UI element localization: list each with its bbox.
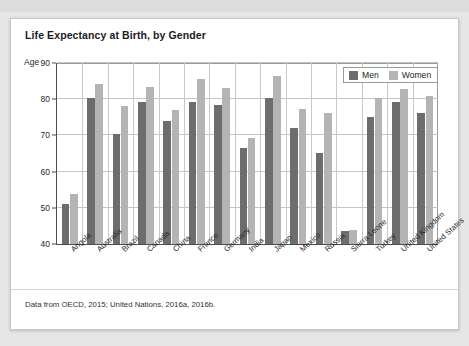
- bar-group: [159, 63, 184, 244]
- page-top-band: [0, 0, 469, 12]
- bar-men: [138, 102, 146, 244]
- bar-women: [324, 113, 332, 244]
- y-axis-tick-label: 50: [41, 203, 50, 213]
- bar-group: [184, 63, 209, 244]
- bar-group: [235, 63, 260, 244]
- y-axis-tick-label: 60: [41, 167, 50, 177]
- y-axis-tick-layer: 405060708090: [11, 63, 56, 245]
- bar-group: [387, 63, 412, 244]
- y-axis-tick-label: 90: [41, 58, 50, 68]
- bar-men: [87, 98, 95, 244]
- figure-source-note: Data from OECD, 2015; United Nations, 20…: [25, 300, 215, 309]
- bar-group: [108, 63, 133, 244]
- bar-men: [62, 204, 70, 244]
- legend-swatch-women-icon: [389, 71, 398, 80]
- bar-men: [189, 102, 197, 244]
- footnote-divider: [11, 289, 458, 290]
- bar-men: [163, 121, 171, 244]
- bar-group: [260, 63, 285, 244]
- page-title: Life Expectancy at Birth, by Gender: [25, 29, 206, 41]
- page-background: Life Expectancy at Birth, by Gender Age …: [0, 0, 469, 346]
- y-axis-tick-label: 40: [41, 239, 50, 249]
- bar-women: [299, 109, 307, 244]
- bar-group: [362, 63, 387, 244]
- y-axis-tick-label: 70: [41, 130, 50, 140]
- bar-group: [286, 63, 311, 244]
- bar-women: [400, 89, 408, 244]
- chart-legend: Men Women: [343, 67, 438, 83]
- bar-group: [336, 63, 361, 244]
- y-axis-tick-label: 80: [41, 94, 50, 104]
- bar-group: [209, 63, 234, 244]
- legend-swatch-men-icon: [349, 71, 358, 80]
- legend-label-men: Men: [362, 70, 379, 80]
- bar-men: [392, 102, 400, 244]
- bar-group: [82, 63, 107, 244]
- bar-men: [214, 105, 222, 244]
- figure-card: Life Expectancy at Birth, by Gender Age …: [10, 18, 459, 330]
- bar-women: [146, 87, 154, 244]
- legend-item-men: Men: [349, 70, 379, 80]
- bar-group: [133, 63, 158, 244]
- bar-women: [70, 194, 78, 244]
- bar-women: [95, 84, 103, 244]
- bar-women: [172, 110, 180, 244]
- bar-men: [265, 98, 273, 244]
- legend-item-women: Women: [389, 70, 431, 80]
- bar-group: [311, 63, 336, 244]
- bar-men: [290, 128, 298, 244]
- bar-group: [57, 63, 82, 244]
- bar-women: [273, 76, 281, 244]
- bar-women: [197, 79, 205, 244]
- bar-women: [222, 88, 230, 244]
- bar-women: [121, 106, 129, 244]
- legend-label-women: Women: [402, 70, 431, 80]
